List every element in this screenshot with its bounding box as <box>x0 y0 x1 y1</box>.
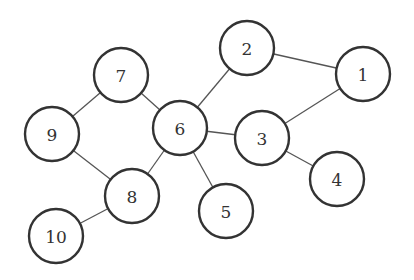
node-label: 7 <box>116 66 127 86</box>
node-label: 9 <box>47 125 58 145</box>
node-4: 4 <box>310 152 364 206</box>
node-5: 5 <box>199 184 253 238</box>
node-label: 10 <box>45 227 67 247</box>
node-2: 2 <box>220 21 274 75</box>
node-label: 2 <box>242 39 253 59</box>
node-6: 6 <box>153 101 207 155</box>
node-9: 9 <box>25 107 79 161</box>
graph-diagram: 12345678910 <box>0 0 414 280</box>
node-3: 3 <box>235 111 289 165</box>
graph-svg: 12345678910 <box>0 0 414 280</box>
node-label: 1 <box>358 65 369 85</box>
node-8: 8 <box>105 169 159 223</box>
node-label: 5 <box>221 202 232 222</box>
node-7: 7 <box>94 48 148 102</box>
node-label: 3 <box>257 129 268 149</box>
node-1: 1 <box>336 47 390 101</box>
nodes-layer: 12345678910 <box>25 21 390 263</box>
node-label: 8 <box>127 187 138 207</box>
node-label: 6 <box>175 119 186 139</box>
node-label: 4 <box>332 170 343 190</box>
node-10: 10 <box>29 209 83 263</box>
